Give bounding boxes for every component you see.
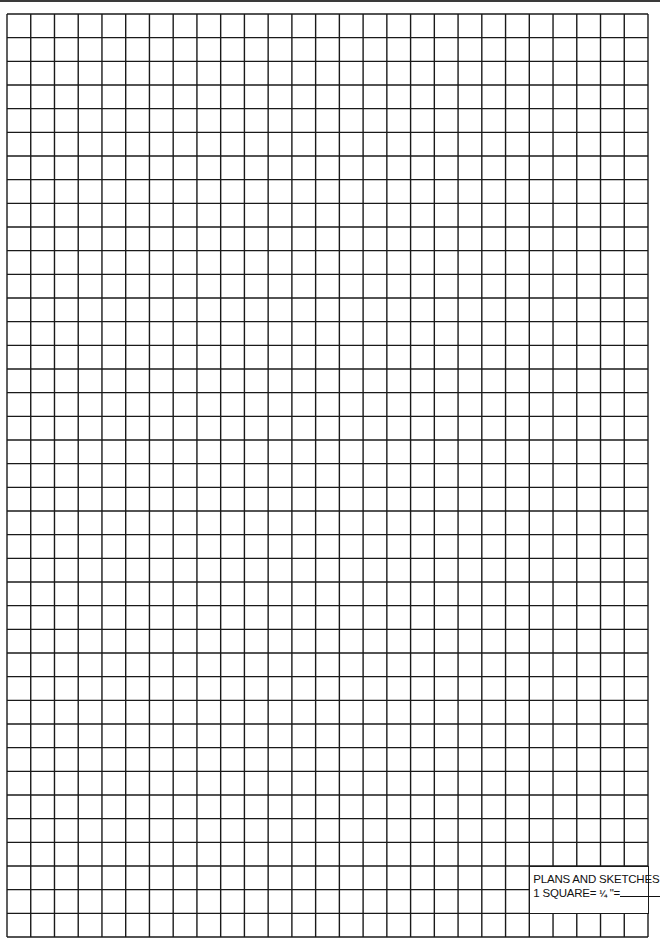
scale-fraction: ¼ <box>599 889 606 899</box>
page-top-edge <box>0 0 660 2</box>
scale-unit: "= <box>610 887 620 899</box>
graph-paper-grid: PLANS AND SKETCHES 1 SQUARE= ¼ "= <box>7 14 648 937</box>
grid-lines <box>7 14 648 937</box>
label-title: PLANS AND SKETCHES <box>533 872 646 886</box>
scale-prefix: 1 SQUARE= <box>533 887 596 899</box>
plans-and-sketches-label: PLANS AND SKETCHES 1 SQUARE= ¼ "= <box>529 866 649 914</box>
scale-value-blank[interactable] <box>620 886 660 897</box>
scale-line: 1 SQUARE= ¼ "= <box>533 886 646 901</box>
